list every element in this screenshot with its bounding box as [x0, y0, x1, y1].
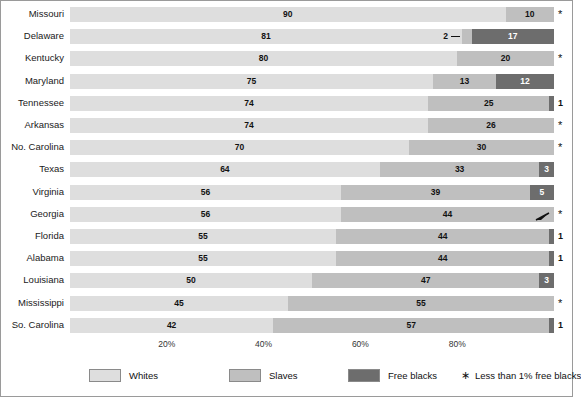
stacked-bar: 4555 [70, 296, 554, 311]
chart-row: Alabama55441 [1, 248, 572, 268]
x-tick-label: 60% [352, 339, 369, 349]
x-tick-label: 20% [158, 339, 175, 349]
segment-value-whites: 74 [70, 118, 428, 133]
segment-free-blacks [549, 318, 554, 333]
leader-line-icon [451, 36, 460, 37]
stacked-bar: 751312 [70, 74, 554, 89]
segment-free-blacks [549, 96, 554, 111]
stacked-bar: 7425 [70, 96, 554, 111]
segment-value-free-blacks: 17 [472, 29, 554, 44]
legend-label: Whites [129, 370, 158, 381]
segment-value-whites: 90 [70, 7, 506, 22]
segment-value-slaves: 25 [428, 96, 549, 111]
segment-value-free-blacks: 3 [539, 273, 554, 288]
segment-value-slaves: 39 [341, 185, 530, 200]
row-label-kentucky: Kentucky [1, 48, 64, 68]
chart-row: Georgia5644* [1, 204, 572, 224]
row-label-alabama: Alabama [1, 248, 64, 268]
row-value-marker: 1 [558, 226, 563, 246]
row-label-georgia: Georgia [1, 204, 64, 224]
row-value-marker: 1 [558, 93, 563, 113]
chart-row: Florida55441 [1, 226, 572, 246]
segment-value-whites: 45 [70, 296, 288, 311]
stacked-bar: 7426 [70, 118, 554, 133]
stacked-bar: 64333 [70, 162, 554, 177]
row-label-so-carolina: So. Carolina [1, 315, 64, 335]
row-label-louisiana: Louisiana [1, 270, 64, 290]
row-asterisk-marker: * [558, 4, 562, 24]
row-asterisk-marker: * [558, 48, 562, 68]
legend-footnote: ∗Less than 1% free blacks [461, 365, 581, 385]
segment-free-blacks [549, 251, 554, 266]
legend-swatch [348, 369, 380, 382]
segment-value-whites: 81 [70, 29, 462, 44]
row-label-arkansas: Arkansas [1, 115, 64, 135]
row-asterisk-marker: * [558, 204, 562, 224]
stacked-bar: 81172 [70, 29, 554, 44]
segment-value-whites: 80 [70, 51, 457, 66]
asterisk-icon: ∗ [461, 369, 470, 382]
segment-value-slaves: 44 [336, 229, 549, 244]
chart-legend: WhitesSlavesFree blacks∗Less than 1% fre… [1, 365, 572, 387]
legend-swatch [229, 369, 261, 382]
row-label-texas: Texas [1, 159, 64, 179]
x-tick-label: 40% [255, 339, 272, 349]
legend-label: Slaves [269, 370, 298, 381]
chart-row: Maryland751312 [1, 71, 572, 91]
segment-free-blacks [549, 229, 554, 244]
segment-value-whites: 42 [70, 318, 273, 333]
chart-row: Missouri9010* [1, 4, 572, 24]
legend-item-slaves: Slaves [229, 365, 298, 385]
segment-slaves [462, 29, 472, 44]
chart-row: Virginia56395 [1, 182, 572, 202]
segment-value-slaves: 10 [506, 7, 554, 22]
chart-row: So. Carolina42571 [1, 315, 572, 335]
plot-area: Missouri9010*Delaware81172Kentucky8020*M… [1, 1, 572, 337]
row-label-missouri: Missouri [1, 4, 64, 24]
chart-frame: Missouri9010*Delaware81172Kentucky8020*M… [0, 0, 573, 397]
row-asterisk-marker: * [558, 115, 562, 135]
segment-value-whites: 56 [70, 207, 341, 222]
segment-value-slaves: 44 [341, 207, 554, 222]
segment-value-whites: 56 [70, 185, 341, 200]
chart-row: Delaware81172 [1, 26, 572, 46]
chart-row: No. Carolina7030* [1, 137, 572, 157]
chart-row: Texas64333 [1, 159, 572, 179]
row-label-maryland: Maryland [1, 71, 64, 91]
row-label-mississippi: Mississippi [1, 293, 64, 313]
row-label-no-carolina: No. Carolina [1, 137, 64, 157]
segment-value-slaves: 57 [273, 318, 549, 333]
legend-label: Free blacks [388, 370, 437, 381]
segment-value-slaves: 20 [457, 51, 554, 66]
row-label-florida: Florida [1, 226, 64, 246]
segment-value-free-blacks: 3 [539, 162, 554, 177]
segment-value-slaves: 55 [288, 296, 554, 311]
legend-swatch [89, 369, 121, 382]
segment-value-whites: 50 [70, 273, 312, 288]
stacked-bar: 5544 [70, 229, 554, 244]
row-asterisk-marker: * [558, 293, 562, 313]
segment-value-slaves: 47 [312, 273, 539, 288]
row-asterisk-marker: * [558, 137, 562, 157]
stacked-bar: 9010 [70, 7, 554, 22]
chart-row: Mississippi4555* [1, 293, 572, 313]
segment-value-slaves: 30 [409, 140, 554, 155]
segment-value-slaves: 2 [424, 29, 448, 44]
row-value-marker: 1 [558, 315, 563, 335]
x-tick-label: 80% [449, 339, 466, 349]
chart-row: Arkansas7426* [1, 115, 572, 135]
segment-value-slaves: 13 [433, 74, 496, 89]
stacked-bar: 56395 [70, 185, 554, 200]
chart-row: Tennessee74251 [1, 93, 572, 113]
stacked-bar: 7030 [70, 140, 554, 155]
row-label-virginia: Virginia [1, 182, 64, 202]
row-label-delaware: Delaware [1, 26, 64, 46]
row-value-marker: 1 [558, 248, 563, 268]
segment-value-free-blacks: 12 [496, 74, 554, 89]
segment-value-free-blacks: 5 [530, 185, 554, 200]
segment-value-whites: 55 [70, 229, 336, 244]
stacked-bar: 50473 [70, 273, 554, 288]
stacked-bar: 8020 [70, 51, 554, 66]
segment-value-whites: 74 [70, 96, 428, 111]
segment-value-whites: 75 [70, 74, 433, 89]
